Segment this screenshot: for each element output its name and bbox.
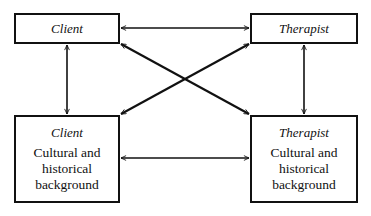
client-title: Client <box>51 21 83 37</box>
therapist-box: Therapist <box>250 13 358 44</box>
client-background-description: Cultural and historical background <box>33 145 100 193</box>
therapist-title: Therapist <box>279 21 329 37</box>
desc-line: Cultural and <box>270 145 337 161</box>
desc-line: Cultural and <box>33 145 100 161</box>
relationship-diagram: Client Therapist Client Cultural and his… <box>0 0 371 216</box>
desc-line: background <box>270 177 337 193</box>
therapist-background-title: Therapist <box>279 125 329 141</box>
client-background-title: Client <box>51 125 83 141</box>
client-background-box: Client Cultural and historical backgroun… <box>14 115 120 203</box>
therapist-background-box: Therapist Cultural and historical backgr… <box>250 115 358 203</box>
therapist-background-description: Cultural and historical background <box>270 145 337 193</box>
desc-line: historical <box>270 161 337 177</box>
client-box: Client <box>14 13 120 44</box>
desc-line: background <box>33 177 100 193</box>
desc-line: historical <box>33 161 100 177</box>
